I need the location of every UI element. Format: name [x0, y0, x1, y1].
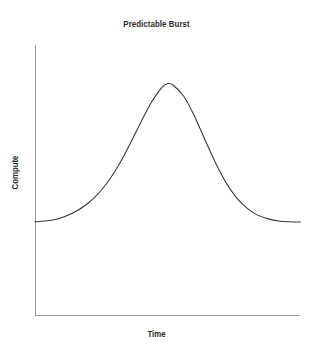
- data-series-line: [35, 83, 300, 222]
- chart-figure: Predictable Burst Compute Time: [0, 0, 313, 355]
- plot-area: [0, 0, 313, 355]
